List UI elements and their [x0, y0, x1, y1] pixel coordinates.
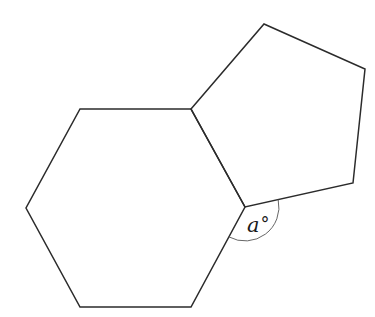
pentagon: [191, 24, 365, 207]
hexagon: [26, 109, 245, 307]
angle-variable: a: [247, 213, 260, 237]
angle-label: a°: [247, 213, 270, 237]
degree-symbol: °: [261, 213, 270, 234]
hexagon-pentagon-diagram: a°: [0, 0, 375, 317]
